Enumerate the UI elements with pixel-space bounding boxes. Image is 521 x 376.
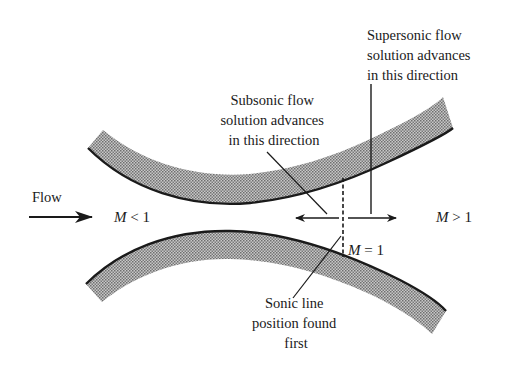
subsonic-mach-label: M < 1 bbox=[113, 209, 150, 225]
sonic-note: Sonic line position found first bbox=[252, 295, 340, 351]
sonic-mach-label: M = 1 bbox=[347, 242, 384, 258]
supersonic-mach-label: M > 1 bbox=[435, 209, 472, 225]
subsonic-note: Subsonic flow solution advances in this … bbox=[220, 92, 327, 148]
nozzle-diagram: Flow M < 1 M > 1 M = 1 Subsonic flow sol… bbox=[0, 0, 521, 376]
flow-label: Flow bbox=[32, 189, 62, 205]
supersonic-note: Supersonic flow solution advances in thi… bbox=[367, 27, 474, 83]
